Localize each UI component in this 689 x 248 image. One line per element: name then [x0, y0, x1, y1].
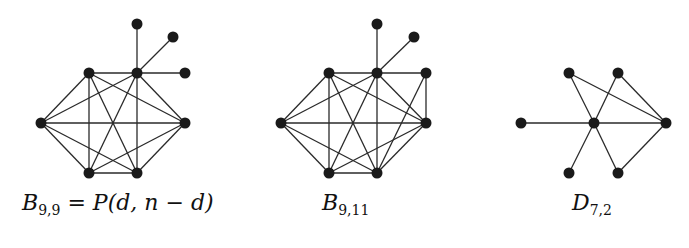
graph-edge — [618, 73, 666, 123]
label-d72: D7,2 — [572, 192, 612, 214]
label-b99-p: P — [93, 190, 108, 215]
graph-vertex — [132, 19, 143, 30]
graph-vertex — [409, 32, 420, 43]
graph-edge — [377, 123, 426, 173]
graph-edge — [281, 123, 329, 173]
label-b99-sub: 9,9 — [38, 202, 60, 218]
graph-vertex — [180, 68, 191, 79]
graph-vertex — [276, 118, 287, 129]
graph-edge — [41, 73, 89, 123]
graph-vertex — [613, 68, 624, 79]
graph-vertex — [564, 168, 575, 179]
graph-edge — [137, 73, 185, 123]
graph-d72 — [516, 68, 672, 179]
graph-edge — [594, 73, 618, 123]
graph-vertex — [372, 19, 383, 30]
graph-edge — [569, 73, 594, 123]
graph-vertex — [421, 68, 432, 79]
graph-edge — [594, 123, 618, 173]
label-b99-main: B — [22, 190, 38, 215]
label-d72-main: D — [572, 190, 590, 215]
label-b99-eq: = — [60, 190, 92, 215]
label-b99: B9,9 = P(d, n − d) — [22, 192, 214, 214]
graph-edge — [377, 37, 414, 73]
graph-vertex — [516, 118, 527, 129]
graph-vertex — [132, 68, 143, 79]
graph-vertex — [661, 118, 672, 129]
label-b911-main: B — [322, 190, 338, 215]
graph-edge — [281, 73, 329, 123]
label-b99-args: (d, n − d) — [108, 190, 214, 215]
graph-vertex — [84, 68, 95, 79]
label-b911: B9,11 — [322, 192, 369, 214]
graph-b99 — [36, 19, 191, 179]
graph-vertex — [372, 168, 383, 179]
graph-vertex — [132, 168, 143, 179]
graph-vertex — [324, 168, 335, 179]
graph-edge — [137, 123, 185, 173]
graph-vertex — [589, 118, 600, 129]
label-d72-sub: 7,2 — [590, 202, 612, 218]
graph-edge — [41, 123, 89, 173]
graph-edge — [618, 123, 666, 173]
graph-edge — [569, 73, 666, 123]
graph-edge — [377, 73, 426, 123]
graph-vertex — [421, 118, 432, 129]
graph-vertex — [180, 118, 191, 129]
graph-vertex — [36, 118, 47, 129]
graph-vertex — [372, 68, 383, 79]
graph-vertex — [84, 168, 95, 179]
graph-edge — [137, 37, 173, 73]
label-b911-sub: 9,11 — [338, 202, 369, 218]
graph-vertex — [564, 68, 575, 79]
graph-vertex — [613, 168, 624, 179]
graph-b911 — [276, 19, 432, 179]
graph-vertex — [168, 32, 179, 43]
graph-edge — [569, 123, 594, 173]
graph-vertex — [324, 68, 335, 79]
